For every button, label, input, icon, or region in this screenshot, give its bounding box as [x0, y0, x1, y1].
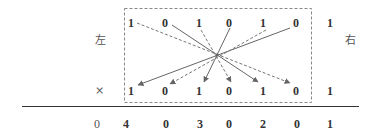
result-digit: 0	[94, 117, 100, 131]
bottom-digit: 0	[293, 84, 299, 98]
result-digit: 2	[260, 117, 266, 131]
top-digit: 0	[162, 16, 168, 30]
result-digit: 0	[163, 117, 169, 131]
result-digit: 3	[197, 117, 203, 131]
dashed-arrows	[137, 23, 290, 84]
arrow-solid-3	[138, 28, 290, 85]
arrow-dashed-3	[170, 30, 266, 84]
result-digit: 4	[123, 117, 129, 131]
result-digit: 1	[327, 117, 333, 131]
result-digit: 0	[294, 117, 300, 131]
bottom-digit: 1	[196, 84, 202, 98]
top-digit: 1	[196, 16, 202, 30]
bottom-digit: 0	[226, 84, 232, 98]
right-label: 右	[345, 33, 356, 47]
top-extra-digit: 1	[327, 16, 333, 30]
arrow-dashed-1	[137, 23, 290, 83]
bottom-extra-digit: 1	[327, 84, 333, 98]
top-digit: 0	[293, 16, 299, 30]
bottom-digit: 0	[162, 84, 168, 98]
bottom-digit: 1	[260, 84, 266, 98]
left-label: 左	[95, 34, 106, 47]
times-sign: ×	[95, 84, 104, 97]
binary-reversal-diagram: 左 右 × 1 0 1 0 1 0 1 1 0 1 0 1 0 1 0 4 0 …	[0, 0, 375, 136]
bottom-row: 1 0 1 0 1 0 1	[128, 84, 333, 98]
top-digit: 0	[226, 16, 232, 30]
result-digit: 0	[226, 117, 232, 131]
solid-arrows	[138, 25, 290, 85]
result-row: 0 4 0 3 0 2 0 1	[94, 117, 333, 131]
center-point	[215, 53, 218, 56]
top-digit: 1	[128, 16, 134, 30]
top-row: 1 0 1 0 1 0 1	[128, 16, 333, 30]
bottom-digit: 1	[128, 84, 134, 98]
top-digit: 1	[260, 16, 266, 30]
